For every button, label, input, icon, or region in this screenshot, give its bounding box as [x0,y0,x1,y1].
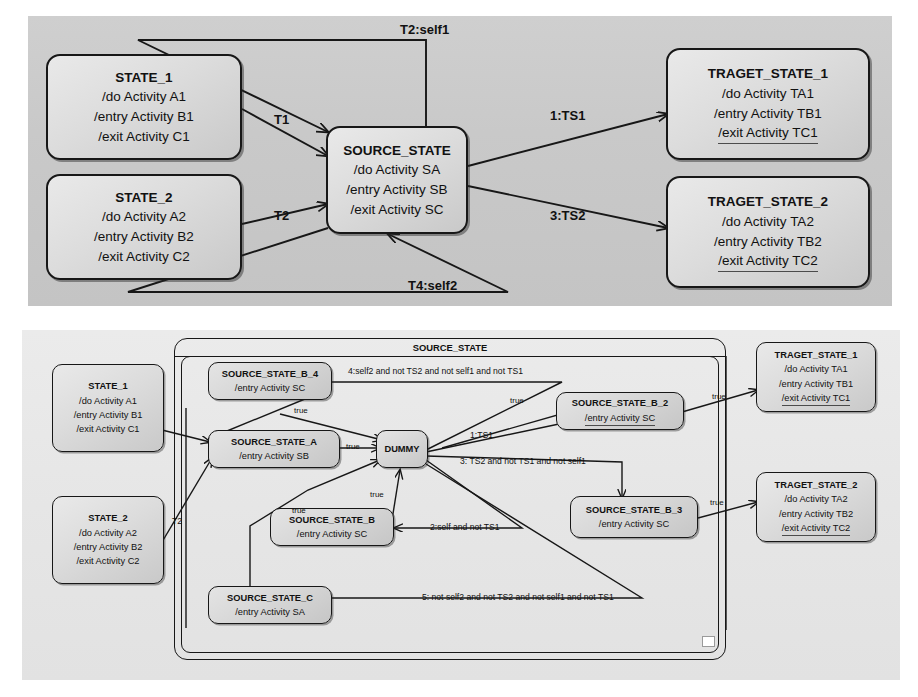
state-line: /do Activity A2 [79,526,137,540]
state-line: /do Activity SA [354,160,440,180]
transition-label-ts1: 1:TS1 [550,108,585,123]
state-line: /entry Activity B2 [74,540,143,554]
state-name: TRAGET_STATE_2 [775,478,858,492]
state-line: /do Activity A1 [102,87,186,107]
state-line: /entry Activity TB1 [714,104,822,124]
state-line: /entry Activity SB [239,449,309,463]
transition-label-guard-4: 4:self2 and not TS2 and not self1 and no… [348,366,523,376]
state-name: SOURCE_STATE_B_3 [586,503,682,517]
state-line: /exit Activity TC1 [718,123,818,144]
state-line: /do Activity TA2 [722,212,814,232]
state-line: /entry Activity B1 [74,408,143,422]
state-name: SOURCE_STATE_B_4 [222,367,318,381]
state-line: /exit Activity C1 [76,422,139,436]
state-box-state-2[interactable]: STATE_2 /do Activity A2 /entry Activity … [46,174,242,280]
transition-label-true: true [510,396,524,405]
transition-label-t2-self1: T2:self1 [400,22,449,37]
transition-label-true: true [370,490,384,499]
transition-label-t4-self2: T4:self2 [408,278,457,293]
state-line: /exit Activity TC2 [782,521,851,536]
transition-label-t2: T2 [172,516,182,526]
state-line: /exit Activity TC2 [718,251,818,272]
state-line: /do Activity A2 [102,207,186,227]
state-line: /do Activity TA1 [722,84,814,104]
state-name: TRAGET_STATE_1 [775,348,858,362]
state-line: /entry Activity TB2 [779,507,853,521]
state-line: /entry Activity SC [297,527,367,541]
state-name: SOURCE_STATE [343,141,451,161]
state-box-source-state-b-3[interactable]: SOURCE_STATE_B_3 /entry Activity SC [570,496,698,538]
state-box-state-1[interactable]: STATE_1 /do Activity A1 /entry Activity … [46,54,242,160]
state-line: /entry Activity SC [235,381,305,395]
state-line: /entry Activity B2 [94,227,194,247]
transition-label-true: true [346,442,360,451]
state-box-target-state-2[interactable]: TRAGET_STATE_2 /do Activity TA2 /entry A… [666,176,870,288]
state-name: STATE_2 [115,188,172,208]
state-line: /exit Activity SC [350,200,443,220]
state-line: /do Activity TA1 [784,362,847,376]
state-box-source-state-a[interactable]: SOURCE_STATE_A /entry Activity SB [208,430,340,468]
state-name: TRAGET_STATE_2 [708,192,828,212]
state-name: STATE_1 [88,379,127,393]
state-box-state-1[interactable]: STATE_1 /do Activity A1 /entry Activity … [52,364,164,452]
bottom-diagram-panel: SOURCE_STATE [22,330,900,680]
transition-label-guard-3: 3: TS2 and not TS1 and not self1 [460,456,586,466]
state-line: /exit Activity C2 [76,554,139,568]
state-name: DUMMY [384,442,419,456]
state-box-source-state-b-4[interactable]: SOURCE_STATE_B_4 /entry Activity SC [208,362,332,400]
state-name: STATE_1 [115,68,172,88]
transition-label-true: true [712,392,726,401]
state-line: /entry Activity SC [599,517,669,531]
state-box-source-state[interactable]: SOURCE_STATE /do Activity SA /entry Acti… [326,126,468,234]
transition-label-guard-5: 5: not self2 and not TS2 and not self1 a… [422,592,614,602]
state-box-target-state-2[interactable]: TRAGET_STATE_2 /do Activity TA2 /entry A… [756,472,876,542]
state-name: STATE_2 [88,511,127,525]
state-box-source-state-c[interactable]: SOURCE_STATE_C /entry Activity SA [208,586,332,624]
state-line: /entry Activity TB1 [779,377,853,391]
state-line: /entry Activity SC [585,411,655,426]
state-box-target-state-1[interactable]: TRAGET_STATE_1 /do Activity TA1 /entry A… [756,342,876,412]
transition-label-true: true [292,506,306,515]
top-diagram-panel: STATE_1 /do Activity A1 /entry Activity … [28,16,892,306]
state-name: SOURCE_STATE_A [231,435,317,449]
state-line: /exit Activity TC1 [782,391,851,406]
state-line: /do Activity A1 [79,394,137,408]
transition-label-guard-2: 2:self and not TS1 [430,522,500,532]
state-box-target-state-1[interactable]: TRAGET_STATE_1 /do Activity TA1 /entry A… [666,48,870,160]
transition-label-ts2: 3:TS2 [550,208,585,223]
state-box-source-state-b[interactable]: SOURCE_STATE_B /entry Activity SC [270,508,394,546]
state-name: TRAGET_STATE_1 [708,64,828,84]
transition-label-t2: T2 [274,208,289,223]
transition-label-true: true [294,406,308,415]
state-line: /entry Activity SB [346,180,447,200]
state-line: /exit Activity C2 [98,247,190,267]
state-name: SOURCE_STATE_B_2 [572,396,668,410]
transition-label-true: true [710,498,724,507]
state-box-dummy[interactable]: DUMMY [376,430,428,468]
state-line: /do Activity TA2 [784,492,847,506]
transition-label-guard-1: 1:TS1 [470,430,493,440]
state-box-state-2[interactable]: STATE_2 /do Activity A2 /entry Activity … [52,496,164,584]
state-box-source-state-b-2[interactable]: SOURCE_STATE_B_2 /entry Activity SC [556,392,684,430]
state-line: /exit Activity C1 [98,127,190,147]
state-line: /entry Activity B1 [94,107,194,127]
state-name: SOURCE_STATE_C [227,591,313,605]
state-line: /entry Activity TB2 [714,232,822,252]
state-line: /entry Activity SA [235,605,305,619]
transition-label-t1: T1 [274,112,289,127]
